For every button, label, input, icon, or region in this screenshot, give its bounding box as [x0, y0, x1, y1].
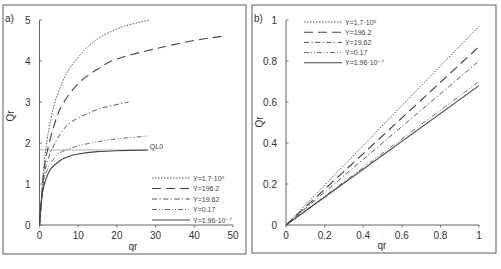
x-tick-label: 40 — [189, 230, 201, 241]
y-tick-label: 0.8 — [263, 56, 277, 67]
x-tick-label: 0.2 — [318, 230, 332, 241]
x-tick-label: 10 — [73, 230, 85, 241]
y-tick-label: 3 — [25, 97, 31, 108]
series-line — [40, 150, 148, 225]
x-tick-label: 0.6 — [395, 230, 409, 241]
legend-label: Y=1.96·10⁻⁷ — [193, 217, 232, 224]
y-axis-label: Qr — [5, 110, 16, 122]
panel-tag: b) — [254, 13, 263, 24]
y-tick-label: 0.2 — [263, 179, 277, 190]
chart-panel-b: b)00.20.40.60.8100.20.40.60.81qrQrY=1.7·… — [252, 5, 496, 253]
figure: a)01020304050012345qrQrQL0Y=1.7·10⁸Y=196… — [0, 0, 501, 269]
series-line — [40, 136, 148, 225]
x-tick-label: 20 — [111, 230, 123, 241]
x-tick-label: 0.8 — [433, 230, 447, 241]
y-tick-label: 1 — [25, 179, 31, 190]
legend-label: Y=196.2 — [193, 185, 219, 192]
x-tick-label: 0 — [37, 230, 43, 241]
legend-label: Y=19.62 — [345, 39, 371, 46]
y-axis-label: Qr — [254, 116, 265, 128]
y-tick-label: 0 — [271, 220, 277, 231]
y-tick-label: 2 — [25, 138, 31, 149]
x-tick-label: 0 — [283, 230, 289, 241]
series-line — [40, 102, 129, 225]
series-line — [40, 20, 150, 225]
legend-label: Y=1.96·10⁻⁷ — [345, 59, 384, 66]
panel-tag: a) — [5, 13, 14, 24]
y-tick-label: 0.4 — [263, 138, 277, 149]
x-tick-label: 0.4 — [356, 230, 370, 241]
x-axis-label: qr — [378, 240, 388, 251]
legend-label: Y=1.7·10⁸ — [193, 175, 225, 182]
legend: Y=1.7·10⁸Y=196.2Y=19.62Y=0.17Y=1.96·10⁻⁷ — [304, 19, 384, 67]
legend-label: Y=1.7·10⁸ — [345, 19, 377, 26]
legend: Y=1.7·10⁸Y=196.2Y=19.62Y=0.17Y=1.96·10⁻⁷ — [152, 175, 232, 224]
x-tick-label: 30 — [150, 230, 162, 241]
legend-label: Y=196.2 — [345, 29, 371, 36]
y-tick-label: 4 — [25, 56, 31, 67]
y-tick-label: 1 — [271, 15, 277, 26]
x-tick-label: 50 — [227, 230, 239, 241]
ql0-label: QL0 — [150, 143, 163, 151]
series-line — [286, 61, 479, 225]
y-tick-label: 0 — [25, 220, 31, 231]
x-tick-label: 1 — [476, 230, 482, 241]
y-tick-label: 5 — [25, 15, 31, 26]
y-tick-label: 0.6 — [263, 97, 277, 108]
chart-panel-a: a)01020304050012345qrQrQL0Y=1.7·10⁸Y=196… — [3, 5, 246, 254]
legend-label: Y=19.62 — [193, 196, 219, 203]
panel-frame — [252, 5, 496, 253]
legend-label: Y=0.17 — [345, 49, 367, 56]
series-line — [286, 26, 479, 225]
legend-label: Y=0.17 — [193, 206, 215, 213]
series-line — [286, 86, 479, 225]
x-axis-label: qr — [129, 241, 139, 252]
series-line — [286, 47, 479, 225]
